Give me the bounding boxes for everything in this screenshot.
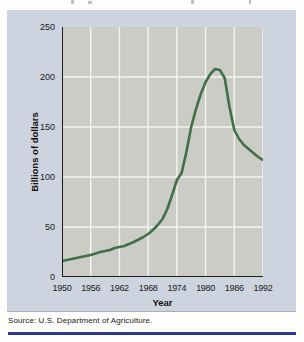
y-tick-label: 0: [19, 272, 55, 283]
plot-svg: [62, 27, 263, 277]
x-tick-label: 1962: [104, 283, 134, 293]
bottom-rule: [8, 332, 296, 335]
y-tick-label: 250: [19, 22, 55, 33]
cropped-title-fragment: [88, 1, 92, 4]
y-tick-label: 100: [19, 172, 55, 183]
x-tick-label: 1980: [191, 283, 221, 293]
cropped-title-fragment: [249, 0, 251, 4]
chart-panel: Billions of dollars 050100150200250 1950…: [7, 10, 296, 312]
x-tick-label: 1986: [219, 283, 249, 293]
source-note: Source: U.S. Department of Agriculture.: [8, 316, 152, 325]
y-tick-label: 150: [19, 122, 55, 133]
x-tick-label: 1974: [162, 283, 192, 293]
x-tick-label: 1950: [47, 283, 77, 293]
x-tick-label: 1956: [76, 283, 106, 293]
y-tick-label: 50: [19, 222, 55, 233]
y-tick-label: 200: [19, 72, 55, 83]
x-axis-title: Year: [62, 297, 263, 308]
x-tick-label: 1992: [248, 283, 278, 293]
x-tick-label: 1968: [133, 283, 163, 293]
cropped-title-fragment: [71, 0, 74, 4]
cropped-title-fragment: [191, 0, 194, 4]
